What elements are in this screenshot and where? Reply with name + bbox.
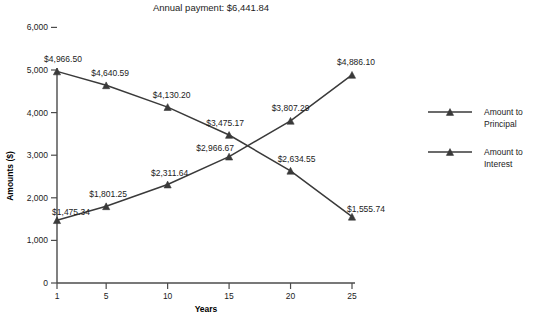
- legend-label-line1: Amount to: [484, 147, 523, 157]
- line-chart: Annual payment: $6,441.84 01,0002,0003,0…: [0, 0, 536, 320]
- y-tick-label: 5,000: [27, 65, 49, 75]
- data-point-marker: [164, 181, 171, 188]
- legend-label-line2: Principal: [484, 119, 517, 129]
- legend-label-line2: Interest: [484, 159, 513, 169]
- x-tick-label: 5: [104, 291, 109, 301]
- data-point-label: $3,475.17: [206, 118, 244, 128]
- data-point-label: $4,886.10: [337, 57, 375, 67]
- y-tick-label: 1,000: [27, 235, 49, 245]
- data-point-label: $1,555.74: [347, 204, 385, 214]
- data-point-marker: [225, 153, 232, 160]
- y-tick-label: 0: [43, 278, 48, 288]
- x-tick-label: 15: [224, 291, 234, 301]
- x-axis: 1510152025 Years: [55, 283, 357, 314]
- x-axis-title: Years: [195, 304, 218, 314]
- x-tick-label: 25: [347, 291, 357, 301]
- data-point-marker: [225, 132, 232, 139]
- data-point-label: $2,966.67: [196, 143, 234, 153]
- chart-title: Annual payment: $6,441.84: [153, 2, 269, 13]
- y-axis-title: Amounts ($): [5, 151, 15, 201]
- data-point-label: $4,130.20: [153, 90, 191, 100]
- y-tick-label: 3,000: [27, 150, 49, 160]
- data-point-marker: [164, 104, 171, 111]
- x-axis-ticks: 1510152025: [55, 283, 357, 301]
- data-point-label: $2,311.64: [151, 168, 188, 178]
- data-point-label: $2,634.55: [278, 154, 316, 164]
- x-tick-label: 20: [286, 291, 296, 301]
- data-point-label: $4,640.59: [91, 68, 129, 78]
- data-point-labels: $4,966.50$4,640.59$4,130.20$3,475.17$2,6…: [44, 54, 385, 217]
- y-tick-label: 2,000: [27, 193, 49, 203]
- y-tick-label: 6,000: [27, 22, 49, 32]
- data-point-marker: [348, 71, 355, 78]
- legend-label-line1: Amount to: [484, 107, 523, 117]
- data-point-label: $1,801.25: [89, 189, 127, 199]
- data-point-label: $3,807.29: [272, 103, 310, 113]
- x-tick-label: 10: [163, 291, 173, 301]
- chart-legend: Amount toPrincipalAmount toInterest: [428, 107, 523, 169]
- chart-container: Annual payment: $6,441.84 01,0002,0003,0…: [0, 0, 536, 320]
- x-tick-label: 1: [55, 291, 60, 301]
- data-point-label: $4,966.50: [44, 54, 82, 64]
- data-point-label: $1,475.34: [52, 207, 90, 217]
- data-point-marker: [287, 167, 294, 174]
- y-tick-label: 4,000: [27, 108, 49, 118]
